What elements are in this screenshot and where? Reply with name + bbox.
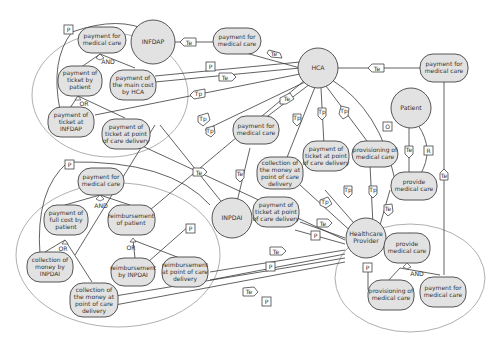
goal-label: reimbursement: [162, 261, 209, 268]
actor-patient[interactable]: Patient: [391, 88, 431, 128]
goal-label: medical care: [372, 294, 411, 301]
goal-inpdai-payment-for-medical-care[interactable]: payment for medical care: [78, 168, 124, 195]
goal-reimbursement-at-point-of-care-delivery[interactable]: reimbursement at point of care delivery: [162, 257, 209, 287]
tag-r-patient: R: [424, 146, 433, 155]
goal-label: of care delivery: [303, 159, 350, 167]
actor-label: INPDAI: [222, 214, 243, 221]
svg-text:P: P: [366, 264, 370, 271]
tag-p-reimb-provider: P: [266, 262, 275, 271]
svg-text:O: O: [385, 123, 390, 130]
goal-label: delivery: [268, 180, 293, 188]
goal-collection-of-money-by-inpdai[interactable]: collection of money by INPDAI: [27, 252, 73, 282]
dependum-patient-provide-medical-care[interactable]: provide medical care: [391, 172, 437, 200]
actor-label: Patient: [400, 104, 422, 111]
goal-reimbursement-of-patient[interactable]: reimbursement of patient: [108, 205, 155, 235]
tag-o-hca-patient: O: [383, 122, 392, 131]
goal-label: medical care: [356, 153, 395, 160]
svg-text:P: P: [67, 26, 71, 33]
dependum-hca-patient-payment-for-medical-care[interactable]: payment for medical care: [420, 54, 468, 82]
tag-tp-provisioning-provider: Tp: [368, 186, 377, 198]
svg-text:Te: Te: [440, 172, 448, 179]
svg-text:AND: AND: [101, 58, 115, 65]
tag-te-dependum-hca: Te: [267, 50, 282, 58]
tag-p-inpdai-reimb: P: [186, 224, 195, 233]
svg-text:Tp: Tp: [205, 127, 214, 135]
svg-text:Te: Te: [245, 288, 253, 295]
svg-text:Tp: Tp: [194, 90, 203, 98]
goal-label: of care delivery: [253, 215, 300, 223]
actor-label: HCA: [311, 64, 325, 71]
dependum-infdap-hca-payment-for-medical-care[interactable]: payment for medical care: [213, 28, 261, 54]
svg-text:Te: Te: [384, 205, 392, 212]
svg-text:AND: AND: [410, 270, 424, 277]
svg-text:OR: OR: [58, 245, 68, 252]
actor-hca[interactable]: HCA: [298, 48, 338, 88]
svg-text:OR: OR: [126, 244, 136, 251]
svg-text:P: P: [209, 63, 213, 70]
healthcare-goal-model-diagram: INFDAP HCA Patient INPDAI Healthcare Pro…: [0, 0, 493, 340]
svg-text:Tp: Tp: [317, 108, 326, 116]
tag-tp-hca-provisioning: Tp: [339, 106, 349, 119]
goal-payment-of-ticket-at-infdap[interactable]: payment of ticket at INFDAP: [48, 107, 94, 137]
svg-text:P: P: [265, 298, 269, 305]
svg-text:Tp: Tp: [292, 114, 301, 122]
goal-payment-of-main-cost-by-hca[interactable]: payment of the main cost by HCA: [110, 70, 156, 100]
goal-label: medical care: [424, 291, 463, 298]
goal-payment-of-full-cost-by-patient[interactable]: payment of full cost by patient: [44, 205, 88, 235]
dependum-provisioning-of-medical-care[interactable]: provisioning of medical care: [352, 141, 398, 167]
goal-payment-of-ticket-by-patient[interactable]: payment of ticket by patient: [58, 66, 102, 96]
goal-collection-of-money-at-point-of-care-delivery[interactable]: collection of the money at point of care…: [70, 283, 118, 317]
svg-text:P: P: [68, 161, 72, 168]
svg-text:Te: Te: [373, 65, 381, 72]
svg-text:Tp: Tp: [368, 186, 377, 194]
tag-p-inpdai-top: P: [65, 160, 74, 169]
actor-inpdai[interactable]: INPDAI: [212, 198, 252, 238]
svg-text:P: P: [189, 225, 193, 232]
svg-text:Te: Te: [283, 95, 291, 102]
goal-label: reimbursement: [110, 264, 157, 271]
goal-payment-of-ticket-at-point-of-care-delivery-infdap[interactable]: payment of ticket at point of care deliv…: [102, 119, 150, 149]
svg-text:P: P: [314, 232, 318, 239]
tag-p-main-cost: P: [206, 62, 215, 71]
tag-te-reimb-provider: Te: [270, 247, 286, 255]
svg-text:Tp: Tp: [339, 107, 348, 115]
tag-te-collection-provider: Te: [243, 287, 258, 296]
actor-label: INFDAP: [142, 38, 165, 45]
svg-text:Te: Te: [195, 169, 203, 176]
svg-text:R: R: [426, 147, 430, 154]
tag-p-collection-provider: P: [262, 297, 271, 306]
goal-label: patient: [69, 83, 91, 91]
operator-or-inpdai-2: OR: [126, 238, 136, 251]
dependum-collection-of-money-at-point-of-care[interactable]: collection of the money at point of care…: [257, 157, 303, 189]
tag-p-infdap-top: P: [64, 25, 73, 34]
goal-label: medical care: [388, 247, 427, 254]
tag-tp-ticket-provider: Tp: [343, 186, 352, 198]
operator-and-infdap: AND: [96, 54, 115, 65]
dependum-payment-of-ticket-at-point-of-care-2[interactable]: payment of ticket at point of care deliv…: [253, 197, 300, 227]
goal-label: medical care: [218, 40, 257, 47]
goal-label: of patient: [116, 219, 146, 227]
goal-label: delivery: [82, 307, 107, 315]
svg-text:OR: OR: [79, 100, 89, 107]
goal-provider-provisioning-of-medical-care[interactable]: provisioning of medical care: [368, 280, 414, 310]
tag-tp-hca-collection: Tp: [292, 114, 301, 126]
goal-infdap-payment-for-medical-care[interactable]: payment for medical care: [78, 27, 126, 53]
actor-healthcare-provider[interactable]: Healthcare Provider: [346, 218, 386, 258]
actor-label: Provider: [353, 237, 379, 244]
goal-reimbursement-by-inpdai[interactable]: reimbursement by INPDAI: [110, 258, 157, 286]
goal-label: ticket at: [59, 118, 84, 125]
actor-infdap[interactable]: INFDAP: [131, 20, 175, 64]
dependum-mid-payment-for-medical-care[interactable]: payment for medical care: [233, 116, 279, 144]
svg-text:Te: Te: [319, 220, 327, 227]
svg-text:Tp: Tp: [198, 115, 207, 123]
tag-te-patient-provider: Te: [384, 204, 393, 216]
goal-provider-payment-for-medical-care[interactable]: payment for medical care: [420, 277, 466, 307]
goal-label: medical care: [82, 180, 121, 187]
tag-p-provider-internal: P: [363, 263, 372, 272]
dependum-payment-of-ticket-at-point-of-care[interactable]: payment of ticket at point of care deliv…: [303, 141, 350, 171]
tag-tp-ticket-infdap-hca: Tp: [190, 89, 205, 99]
goal-label: collection of: [262, 159, 299, 166]
tag-tp-collection-provider: Tp: [320, 197, 332, 208]
goal-provider-provide-medical-care[interactable]: provide medical care: [384, 233, 430, 263]
goal-label: by INPDAI: [118, 271, 148, 279]
